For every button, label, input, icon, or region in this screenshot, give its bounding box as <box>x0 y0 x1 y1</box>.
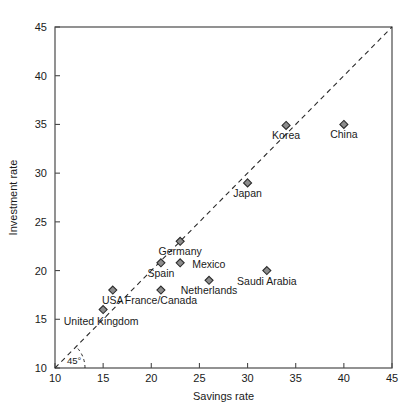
data-point-label: Netherlands <box>181 284 238 296</box>
x-tick-label: 35 <box>290 372 302 384</box>
data-point: Germany <box>159 237 203 257</box>
data-point-marker <box>157 259 165 267</box>
x-tick-label: 10 <box>49 372 61 384</box>
angle-annotation-45: 45° <box>67 347 85 368</box>
data-point: United Kingdom <box>64 306 139 327</box>
y-tick-label: 30 <box>35 167 47 179</box>
plot-area: 1015202530354045 1015202530354045 45° Un… <box>0 0 417 412</box>
data-point-marker <box>99 306 107 314</box>
data-point-marker <box>157 286 165 294</box>
data-point-marker <box>340 120 348 128</box>
data-point-label: Korea <box>272 129 300 141</box>
x-tick-label: 20 <box>145 372 157 384</box>
data-point: China <box>330 120 358 140</box>
y-axis-tick-labels: 1015202530354045 <box>35 21 47 374</box>
y-axis-title: Investment rate <box>7 160 19 236</box>
data-point: Mexico <box>176 258 225 270</box>
y-tick-label: 35 <box>35 118 47 130</box>
x-tick-label: 30 <box>241 372 253 384</box>
data-point-marker <box>263 267 271 275</box>
x-tick-label: 25 <box>193 372 205 384</box>
x-tick-label: 15 <box>97 372 109 384</box>
x-axis-title: Savings rate <box>193 390 254 402</box>
y-tick-label: 45 <box>35 21 47 33</box>
data-point-label: Germany <box>159 245 203 257</box>
y-tick-label: 10 <box>35 362 47 374</box>
data-point-label: Mexico <box>192 258 225 270</box>
x-tick-label: 45 <box>386 372 398 384</box>
y-tick-label: 25 <box>35 216 47 228</box>
data-point-label: Japan <box>233 187 262 199</box>
data-point-label: China <box>330 128 358 140</box>
data-point: Saudi Arabia <box>237 267 297 287</box>
y-tick-label: 20 <box>35 265 47 277</box>
y-tick-label: 40 <box>35 70 47 82</box>
x-axis-tick-labels: 1015202530354045 <box>49 372 398 384</box>
data-point: Netherlands <box>181 276 238 296</box>
data-point-marker <box>205 276 213 284</box>
data-point-marker <box>244 179 252 187</box>
data-point-label: Saudi Arabia <box>237 275 297 287</box>
data-point-label: Spain <box>147 267 174 279</box>
x-axis-ticks <box>55 363 392 368</box>
data-point-label: USA <box>102 294 124 306</box>
data-point-label: United Kingdom <box>64 315 139 327</box>
y-axis-ticks <box>55 27 60 368</box>
y-tick-label: 15 <box>35 313 47 325</box>
data-point-marker <box>282 121 290 129</box>
x-tick-label: 40 <box>338 372 350 384</box>
data-point-series: United KingdomUSAFrance/CanadaSpainMexic… <box>64 120 358 326</box>
data-point: Spain <box>147 259 174 279</box>
data-point-marker <box>109 286 117 294</box>
data-point: USA <box>102 286 124 306</box>
scatter-chart: 1015202530354045 1015202530354045 45° Un… <box>0 0 417 412</box>
angle-arc-label: 45° <box>67 355 82 366</box>
data-point-marker <box>176 259 184 267</box>
data-point: Japan <box>233 179 262 199</box>
